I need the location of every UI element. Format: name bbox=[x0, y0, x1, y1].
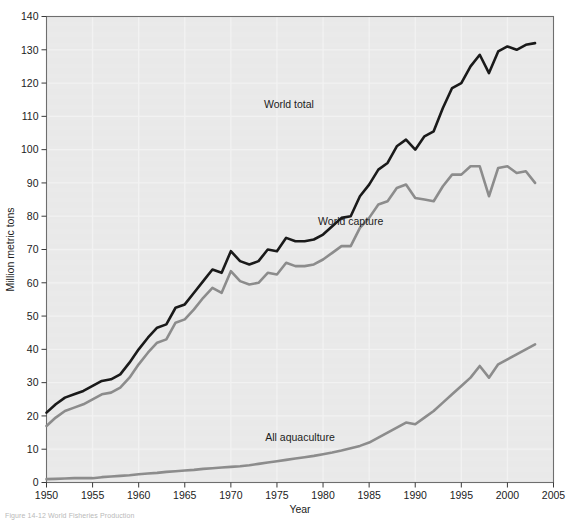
series-label-all-aquaculture: All aquaculture bbox=[265, 431, 335, 443]
y-tick-label: 90 bbox=[27, 177, 39, 189]
y-tick-label: 100 bbox=[21, 143, 39, 155]
y-tick-label: 10 bbox=[27, 443, 39, 455]
y-tick-label: 140 bbox=[21, 10, 39, 22]
y-axis-title: Million metric tons bbox=[4, 207, 16, 291]
y-tick-label: 120 bbox=[21, 77, 39, 89]
x-tick-label: 1965 bbox=[173, 489, 197, 501]
y-tick-label: 70 bbox=[27, 243, 39, 255]
x-tick-label: 1985 bbox=[357, 489, 381, 501]
x-tick-label: 2000 bbox=[496, 489, 520, 501]
figure-container: 0102030405060708090100110120130140195019… bbox=[0, 0, 578, 525]
y-tick-label: 110 bbox=[22, 110, 39, 122]
x-tick-label: 1990 bbox=[404, 489, 428, 501]
x-axis: 1950195519601965197019751980198519901995… bbox=[35, 483, 566, 502]
y-tick-label: 50 bbox=[27, 310, 39, 322]
series-label-world-total: World total bbox=[264, 98, 314, 110]
y-tick-label: 30 bbox=[27, 376, 39, 388]
x-tick-label: 1955 bbox=[81, 489, 105, 501]
y-axis: 0102030405060708090100110120130140 bbox=[21, 10, 47, 488]
y-tick-label: 40 bbox=[27, 343, 39, 355]
figure-caption: Figure 14-12 World Fisheries Production bbox=[5, 512, 405, 524]
x-tick-label: 1960 bbox=[127, 489, 151, 501]
series-label-world-capture: World capture bbox=[318, 215, 383, 227]
line-chart: 0102030405060708090100110120130140195019… bbox=[0, 0, 578, 525]
y-tick-label: 130 bbox=[21, 44, 39, 56]
y-tick-label: 60 bbox=[27, 277, 39, 289]
y-tick-label: 0 bbox=[33, 476, 39, 488]
x-tick-label: 1950 bbox=[35, 489, 59, 501]
x-tick-label: 1995 bbox=[450, 489, 474, 501]
x-tick-label: 1975 bbox=[265, 489, 289, 501]
x-tick-label: 2005 bbox=[542, 489, 566, 501]
y-tick-label: 80 bbox=[27, 210, 39, 222]
x-tick-label: 1970 bbox=[219, 489, 243, 501]
y-tick-label: 20 bbox=[27, 410, 39, 422]
x-tick-label: 1980 bbox=[311, 489, 335, 501]
